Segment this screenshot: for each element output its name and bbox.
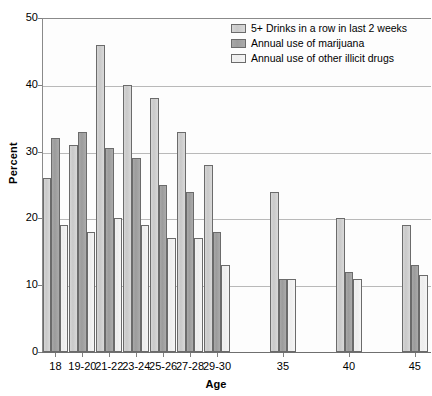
y-tick-label: 50: [12, 12, 38, 23]
legend-item[interactable]: Annual use of other illicit drugs: [231, 52, 407, 65]
bar: [419, 275, 428, 352]
bar: [150, 98, 159, 352]
bar-chart: Percent 50403020100 1819-2021-2223-2425-…: [0, 0, 432, 396]
legend-label: Annual use of other illicit drugs: [251, 53, 394, 64]
bar: [177, 132, 186, 352]
bar: [204, 165, 213, 352]
bar: [287, 279, 296, 352]
x-tick-label: 35: [253, 360, 313, 372]
y-tick-label: 0: [12, 346, 38, 357]
bar: [159, 185, 168, 352]
x-tick-mark: [190, 353, 191, 357]
bar: [105, 148, 114, 352]
y-tick-label: 10: [12, 279, 38, 290]
bar: [51, 138, 60, 352]
y-tick-mark: [38, 352, 42, 353]
y-tick-mark: [38, 285, 42, 286]
bar: [353, 279, 362, 352]
x-tick-label: 45: [385, 360, 432, 372]
bar: [186, 192, 195, 352]
bar: [270, 192, 279, 352]
bar: [69, 145, 78, 352]
bar: [96, 45, 105, 352]
bar: [78, 132, 87, 352]
legend-swatch-icon: [231, 39, 246, 48]
bar: [43, 178, 52, 352]
bar: [345, 272, 354, 352]
x-tick-mark: [163, 353, 164, 357]
y-tick-mark: [38, 85, 42, 86]
x-tick-mark: [349, 353, 350, 357]
bar: [60, 225, 69, 352]
y-axis-tick-labels: 50403020100: [0, 0, 38, 396]
y-tick-label: 40: [12, 79, 38, 90]
legend-item[interactable]: 5+ Drinks in a row in last 2 weeks: [231, 22, 407, 35]
x-tick-mark: [55, 353, 56, 357]
bar: [141, 225, 150, 352]
legend-item[interactable]: Annual use of marijuana: [231, 37, 407, 50]
y-tick-mark: [38, 152, 42, 153]
bar: [123, 85, 132, 352]
bar: [114, 218, 123, 352]
bar: [402, 225, 411, 352]
bar: [132, 158, 141, 352]
x-tick-label: 29-30: [187, 360, 247, 372]
legend-label: 5+ Drinks in a row in last 2 weeks: [251, 23, 407, 34]
bar: [87, 232, 96, 352]
bar: [336, 218, 345, 352]
x-tick-mark: [136, 353, 137, 357]
bar: [213, 232, 222, 352]
x-tick-mark: [217, 353, 218, 357]
bar: [221, 265, 230, 352]
y-tick-mark: [38, 18, 42, 19]
x-tick-mark: [283, 353, 284, 357]
x-axis-title: Age: [0, 378, 432, 390]
y-tick-mark: [38, 218, 42, 219]
bar: [411, 265, 420, 352]
chart-legend: 5+ Drinks in a row in last 2 weeksAnnual…: [231, 22, 407, 67]
x-axis-line: [42, 352, 431, 353]
x-tick-label: 40: [319, 360, 379, 372]
legend-label: Annual use of marijuana: [251, 38, 364, 49]
x-tick-mark: [82, 353, 83, 357]
x-tick-mark: [415, 353, 416, 357]
y-tick-label: 30: [12, 146, 38, 157]
legend-swatch-icon: [231, 54, 246, 63]
bar: [167, 238, 176, 352]
bar: [279, 279, 288, 352]
y-tick-label: 20: [12, 212, 38, 223]
bar: [194, 238, 203, 352]
bars-layer: [42, 18, 431, 352]
legend-swatch-icon: [231, 24, 246, 33]
x-tick-mark: [109, 353, 110, 357]
